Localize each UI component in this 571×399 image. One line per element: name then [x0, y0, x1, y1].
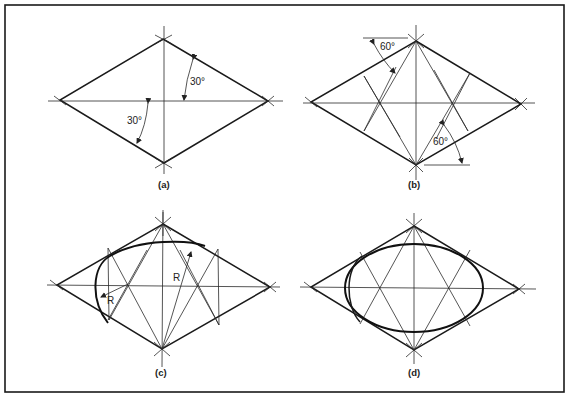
vertex-ticks	[50, 212, 276, 356]
construction-line	[360, 226, 414, 324]
horizontal-axis	[47, 285, 280, 287]
panel-caption: (c)	[155, 367, 167, 378]
construction-line	[364, 41, 416, 131]
construction-line	[163, 224, 219, 325]
radius-label-large: R	[173, 272, 180, 283]
angle-label-upper: 60°	[380, 41, 395, 52]
horizontal-axis	[300, 287, 536, 289]
panel-caption: (b)	[408, 179, 420, 190]
construction-line	[108, 248, 162, 349]
radius-label-small: R	[107, 295, 114, 306]
panel-a: 30° 30° (a)	[48, 26, 283, 190]
perpendicular-line	[108, 248, 109, 320]
panel-caption: (d)	[408, 367, 420, 378]
construction-line	[360, 252, 414, 350]
panel-b: 60° 60° (b)	[303, 25, 535, 190]
perpendicular-line	[180, 250, 219, 325]
construction-line	[162, 249, 218, 349]
construction-line	[414, 226, 470, 326]
angle-label-lower: 60°	[433, 136, 448, 147]
isometric-ellipse-construction-figure: 30° 30° (a) 60°	[0, 0, 571, 399]
angle-label-upper: 30°	[190, 76, 205, 87]
construction-line	[109, 224, 163, 320]
partial-ellipse-arc	[95, 242, 205, 323]
angle-label-lower: 30°	[127, 115, 142, 126]
panel-d: (d)	[300, 213, 536, 378]
perpendicular-line	[364, 76, 400, 137]
perpendicular-line	[434, 70, 468, 131]
panel-caption: (a)	[158, 179, 170, 190]
perpendicular-line	[218, 249, 219, 325]
construction-line	[414, 250, 470, 350]
figure-border	[5, 5, 564, 392]
panel-c: R R (c)	[47, 210, 280, 378]
